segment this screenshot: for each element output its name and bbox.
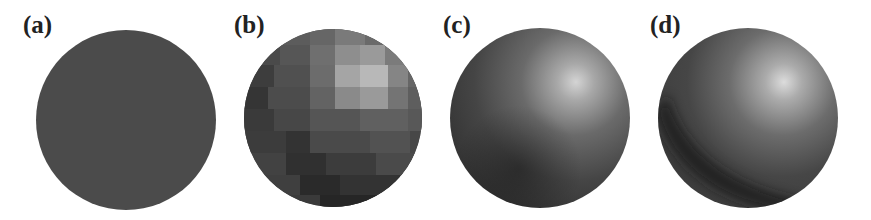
panel-c: (c) (435, 0, 650, 220)
faceted-sphere-image (220, 0, 435, 220)
smooth-sphere-image (435, 0, 650, 220)
flat-sphere-image (0, 0, 220, 220)
shadowed-sphere-image (650, 0, 871, 220)
panel-d: (d) (650, 0, 871, 220)
panel-b: (b) (220, 0, 435, 220)
panel-a: (a) (0, 0, 220, 220)
